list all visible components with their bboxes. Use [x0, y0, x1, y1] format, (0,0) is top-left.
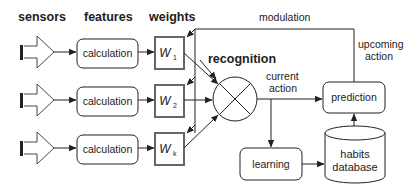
weight-subscript-1: 1 [173, 54, 177, 61]
sensor-row-1: calculation W 1 [20, 36, 184, 69]
upcoming-action-label-1: upcoming [358, 38, 404, 50]
modulation-label: modulation [259, 11, 311, 23]
diagram-canvas: sensors features weights recognition cal… [0, 0, 420, 196]
sensor-row-2: calculation W 2 [20, 84, 184, 117]
current-action-label-1: current [266, 70, 299, 82]
sensor-row-3: calculation W k [20, 132, 184, 165]
prediction-label: prediction [331, 91, 377, 103]
weight-symbol-2: W [159, 94, 172, 108]
calculation-label-1: calculation [83, 47, 133, 59]
sensor-arrow-icon [20, 84, 54, 116]
weight-symbol-3: W [159, 142, 172, 156]
habits-label-1: habits [340, 148, 370, 160]
sensor-arrow-icon [20, 36, 54, 68]
header-recognition: recognition [208, 52, 276, 66]
weight-symbol-1: W [159, 46, 172, 60]
header-features: features [84, 10, 133, 24]
learning-label: learning [252, 158, 290, 170]
header-sensors: sensors [18, 10, 66, 24]
upcoming-action-label-2: action [365, 50, 393, 62]
calculation-label-3: calculation [83, 143, 133, 155]
current-action-label-2: action [269, 82, 297, 94]
weight-subscript-3: k [173, 150, 177, 157]
multiplier-circle-icon [213, 77, 257, 121]
habits-label-2: database [332, 161, 377, 173]
sensor-arrow-icon [20, 132, 54, 164]
header-weights: weights [148, 10, 196, 24]
weight-subscript-2: 2 [173, 102, 177, 109]
calculation-label-2: calculation [83, 95, 133, 107]
